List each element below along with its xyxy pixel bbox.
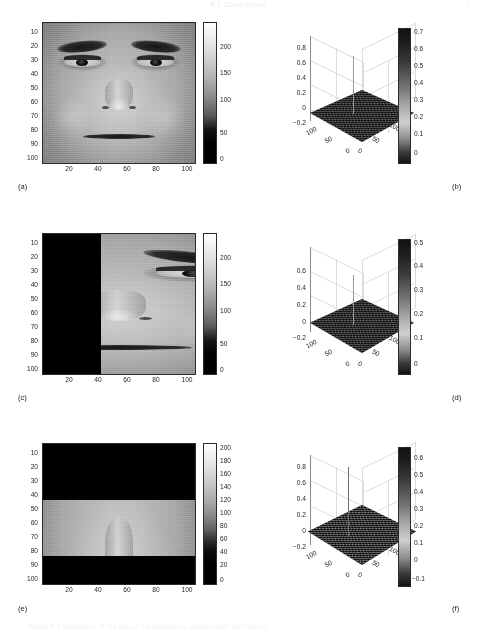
panel-b-ztick: 0 [272,105,306,112]
panel-c-colorbar-tick: 200 [220,255,231,262]
face-image-left-masked [43,234,195,374]
face-image-band-masked [43,444,195,584]
occlusion-mask-top [43,444,195,500]
panel-b-xtick: 0 [345,148,351,156]
panel-a-ytick: 40 [16,71,38,78]
panel-d-xtick: 50 [324,349,334,358]
panel-f-xtick: 50 [324,560,334,569]
panel-e-image [42,443,196,585]
panel-e-colorbar-tick: 180 [220,458,231,465]
panel-f-ztick: 0.2 [272,512,306,519]
panel-c-ytick: 70 [16,324,38,331]
panel-e-xtick: 80 [147,587,165,594]
panel-e-ytick: 20 [16,464,38,471]
panel-f-xtick: 0 [345,572,351,580]
panel-b-ztick: 0.6 [272,60,306,67]
panel-d-xtick: 0 [345,361,351,369]
panel-d-xtick: 100 [305,339,318,350]
panel-b-xtick: 100 [305,126,318,137]
occlusion-mask-vertical [43,234,101,374]
panel-a-ytick: 70 [16,113,38,120]
panel-e-xtick: 20 [60,587,78,594]
panel-c-colorbar [203,233,217,375]
panel-b-ztick: 0.4 [272,75,306,82]
panel-a-colorbar-tick: 150 [220,70,231,77]
panel-a-ytick: 80 [16,127,38,134]
panel-b-colorbar-tick: 0.2 [414,114,423,121]
panel-d-label: (d) [452,393,461,402]
panel-e-colorbar-tick: 100 [220,510,231,517]
panel-b-colorbar-tick: 0.1 [414,131,423,138]
panel-e-colorbar-tick: 60 [220,536,227,543]
panel-b-ytick: 0 [357,148,363,156]
panel-d-colorbar-tick: 0.3 [414,287,423,294]
panel-b-label: (b) [452,182,461,191]
panel-c-ytick: 60 [16,310,38,317]
running-head: 5.2 Correlations [0,1,477,8]
z-axis [310,247,311,332]
panel-e-ytick: 80 [16,548,38,555]
panel-e-ytick: 30 [16,478,38,485]
panel-a-ytick: 10 [16,29,38,36]
panel-c-ytick: 50 [16,296,38,303]
panel-e-ytick: 100 [12,576,38,583]
panel-f-label: (f) [452,604,459,613]
panel-c-label: (c) [18,393,27,402]
panel-d-colorbar-tick: 0.5 [414,240,423,247]
panel-f-colorbar-tick: 0.2 [414,523,423,530]
panel-a-ytick: 100 [12,155,38,162]
panel-f-colorbar-tick: 0.3 [414,506,423,513]
panel-a-xtick: 80 [147,166,165,173]
panel-e-xtick: 40 [89,587,107,594]
panel-c-xtick: 100 [176,377,198,384]
face-image-full [43,23,195,163]
panel-f-ztick: 0.4 [272,496,306,503]
panel-c-ytick: 100 [12,366,38,373]
figure-caption: Figure 5.2 Illustration of the use of th… [28,623,452,630]
panel-f-ztick: 0.8 [272,464,306,471]
panel-f-colorbar [398,447,411,587]
panel-d-colorbar-tick: 0.1 [414,335,423,342]
correlation-peak-spike [353,275,354,325]
panel-b-colorbar-tick: 0.4 [414,80,423,87]
panel-b-colorbar-tick: 0.3 [414,97,423,104]
panel-d-ytick: 50 [371,349,381,358]
panel-c-xtick: 80 [147,377,165,384]
occlusion-mask-bottom [43,556,195,584]
panel-e-colorbar-tick: 0 [220,577,224,584]
panel-c-colorbar-tick: 50 [220,341,227,348]
panel-d-colorbar-tick: 0 [414,361,418,368]
panel-d-ztick: 0.2 [272,302,306,309]
panel-e-ytick: 60 [16,520,38,527]
panel-b-colorbar-tick: 0.6 [414,46,423,53]
panel-f-colorbar-tick: −0.1 [412,576,425,583]
panel-c-ytick: 10 [16,240,38,247]
panel-a-colorbar-tick: 0 [220,156,224,163]
panel-e-colorbar-tick: 200 [220,445,231,452]
panel-f-xtick: 100 [305,550,318,561]
panel-b-ztick: −0.2 [269,120,306,127]
panel-f-ztick: 0 [272,528,306,535]
panel-f-colorbar-tick: 0 [414,557,418,564]
panel-a-colorbar [203,22,217,164]
correlation-peak-spike [348,467,349,537]
panel-c-ytick: 90 [16,352,38,359]
panel-f-colorbar-tick: 0.1 [414,540,423,547]
panel-b-colorbar-tick: 0 [414,150,418,157]
panel-d-colorbar-tick: 0.2 [414,311,423,318]
panel-c-colorbar-tick: 0 [220,367,224,374]
panel-f-ytick: 50 [371,560,381,569]
panel-d-colorbar-tick: 0.4 [414,263,423,270]
panel-f-colorbar-tick: 0.6 [414,455,423,462]
panel-e-colorbar-tick: 140 [220,484,231,491]
z-axis [310,36,311,121]
panel-c-xtick: 20 [60,377,78,384]
panel-a-ytick: 20 [16,43,38,50]
panel-a-colorbar-tick: 50 [220,130,227,137]
panel-d-ztick: 0 [272,319,306,326]
panel-a-ytick: 30 [16,57,38,64]
panel-c-ytick: 30 [16,268,38,275]
panel-b-ztick: 0.8 [272,45,306,52]
panel-e-label: (e) [18,604,27,613]
panel-b-ztick: 0.2 [272,90,306,97]
